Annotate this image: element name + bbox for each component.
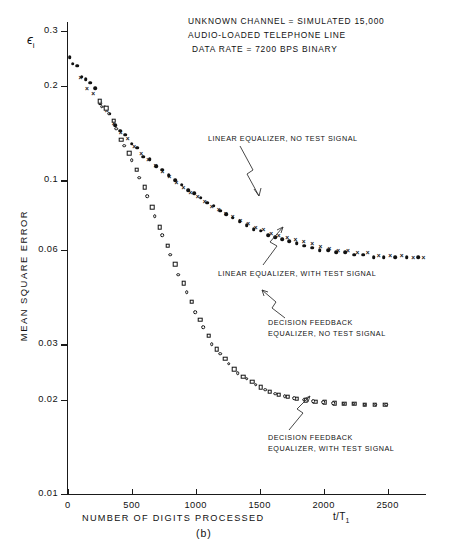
data-point bbox=[168, 253, 172, 257]
data-point bbox=[254, 383, 258, 387]
figure-root: UNKNOWN CHANNEL = SIMULATED 15,000 AUDIO… bbox=[0, 0, 451, 546]
data-point bbox=[245, 377, 249, 381]
data-point bbox=[145, 195, 149, 199]
annotation-linear-with-test-signal: LINEAR EQUALIZER, WITH TEST SIGNAL bbox=[218, 269, 376, 278]
data-point bbox=[264, 388, 268, 392]
data-point bbox=[292, 396, 296, 400]
data-point bbox=[363, 403, 367, 407]
data-point bbox=[342, 402, 346, 406]
data-point bbox=[130, 158, 134, 162]
data-point bbox=[352, 402, 356, 406]
data-point bbox=[177, 273, 181, 277]
data-point bbox=[273, 392, 277, 396]
data-point bbox=[312, 399, 316, 403]
data-point bbox=[153, 214, 157, 218]
annotation-df-with-test-signal-line2: EQUALIZER, WITH TEST SIGNAL bbox=[268, 444, 394, 453]
data-point bbox=[331, 401, 335, 405]
data-point bbox=[227, 362, 231, 366]
data-point bbox=[202, 326, 206, 330]
annotation-df-no-test-signal-line1: DECISION FEEDBACK bbox=[268, 318, 353, 327]
data-point bbox=[236, 371, 240, 375]
annotation-df-with-test-signal-line1: DECISION FEEDBACK bbox=[268, 433, 353, 442]
data-point bbox=[385, 403, 389, 407]
data-point bbox=[100, 105, 104, 109]
data-point bbox=[283, 394, 287, 398]
annotation-linear-no-test-signal: LINEAR EQUALIZER, NO TEST SIGNAL bbox=[208, 134, 358, 143]
data-point bbox=[115, 127, 119, 131]
data-point bbox=[161, 233, 165, 237]
data-point bbox=[185, 290, 189, 294]
annotation-df-no-test-signal-line2: EQUALIZER, NO TEST SIGNAL bbox=[268, 329, 386, 338]
data-point bbox=[218, 352, 222, 356]
data-point bbox=[210, 343, 214, 347]
data-point bbox=[374, 403, 378, 407]
data-point bbox=[193, 310, 197, 314]
data-point bbox=[122, 144, 126, 148]
data-point bbox=[321, 401, 325, 405]
data-point bbox=[138, 176, 142, 180]
data-point bbox=[107, 112, 111, 116]
data-point bbox=[302, 398, 306, 402]
